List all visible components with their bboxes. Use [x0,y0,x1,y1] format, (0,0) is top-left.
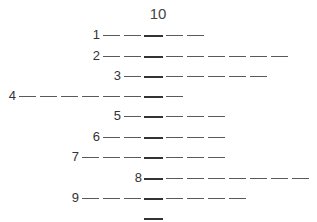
letter-blank[interactable] [166,96,183,97]
letter-blank[interactable] [208,157,225,158]
puzzle-row: 6 [0,137,317,151]
letter-blank[interactable] [124,35,141,36]
clue-number: 5 [111,109,121,123]
letter-blank[interactable] [187,116,204,117]
clue-number: 4 [6,89,16,103]
letter-blank[interactable] [250,76,267,77]
letter-blank[interactable] [187,76,204,77]
letter-blank[interactable] [229,76,246,77]
key-letter-blank[interactable] [144,35,163,37]
letter-blank[interactable] [19,96,36,97]
clue-number: 9 [69,191,79,205]
letter-blank[interactable] [166,198,183,199]
letter-blank[interactable] [124,96,141,97]
letter-blank[interactable] [124,76,141,77]
letter-blank[interactable] [187,178,204,179]
letter-blank[interactable] [271,178,288,179]
key-letter-blank[interactable] [144,218,163,220]
key-letter-blank[interactable] [144,178,163,180]
letter-blank[interactable] [208,116,225,117]
letter-blank[interactable] [103,198,120,199]
puzzle-row: 3 [0,76,317,90]
letter-blank[interactable] [103,157,120,158]
letter-blank[interactable] [187,56,204,57]
letter-blank[interactable] [124,116,141,117]
letter-blank[interactable] [208,198,225,199]
puzzle-title: 10 [146,5,170,23]
letter-blank[interactable] [229,56,246,57]
letter-blank[interactable] [166,76,183,77]
letter-blank[interactable] [271,56,288,57]
key-letter-blank[interactable] [144,157,163,159]
letter-blank[interactable] [103,56,120,57]
letter-blank[interactable] [124,157,141,158]
letter-blank[interactable] [166,116,183,117]
letter-blank[interactable] [187,157,204,158]
key-letter-blank[interactable] [144,76,163,78]
puzzle-row: 4 [0,96,317,110]
clue-number: 6 [90,130,100,144]
puzzle-row [0,218,317,222]
letter-blank[interactable] [166,178,183,179]
letter-blank[interactable] [229,178,246,179]
puzzle-row: 9 [0,198,317,212]
letter-blank[interactable] [187,137,204,138]
letter-blank[interactable] [250,56,267,57]
puzzle-row: 7 [0,157,317,171]
letter-blank[interactable] [208,137,225,138]
puzzle-row: 2 [0,56,317,70]
letter-blank[interactable] [166,56,183,57]
letter-blank[interactable] [82,198,99,199]
letter-blank[interactable] [166,35,183,36]
letter-blank[interactable] [40,96,57,97]
letter-blank[interactable] [124,56,141,57]
letter-blank[interactable] [61,96,78,97]
clue-number: 8 [132,171,142,185]
puzzle-row: 1 [0,35,317,49]
letter-blank[interactable] [292,178,309,179]
letter-blank[interactable] [166,137,183,138]
letter-blank[interactable] [187,198,204,199]
key-letter-blank[interactable] [144,116,163,118]
letter-blank[interactable] [208,178,225,179]
letter-blank[interactable] [208,76,225,77]
letter-blank[interactable] [82,96,99,97]
puzzle-row: 5 [0,116,317,130]
puzzle-row: 8 [0,178,317,192]
letter-blank[interactable] [187,35,204,36]
clue-number: 7 [69,150,79,164]
letter-blank[interactable] [250,178,267,179]
letter-blank[interactable] [229,198,246,199]
letter-blank[interactable] [103,35,120,36]
clue-number: 1 [90,28,100,42]
clue-number: 3 [111,69,121,83]
letter-blank[interactable] [124,198,141,199]
letter-blank[interactable] [166,157,183,158]
key-letter-blank[interactable] [144,137,163,139]
key-letter-blank[interactable] [144,96,163,98]
letter-blank[interactable] [82,157,99,158]
key-letter-blank[interactable] [144,198,163,200]
letter-blank[interactable] [124,137,141,138]
letter-blank[interactable] [103,137,120,138]
letter-blank[interactable] [208,56,225,57]
key-letter-blank[interactable] [144,56,163,58]
clue-number: 2 [90,49,100,63]
letter-blank[interactable] [103,96,120,97]
